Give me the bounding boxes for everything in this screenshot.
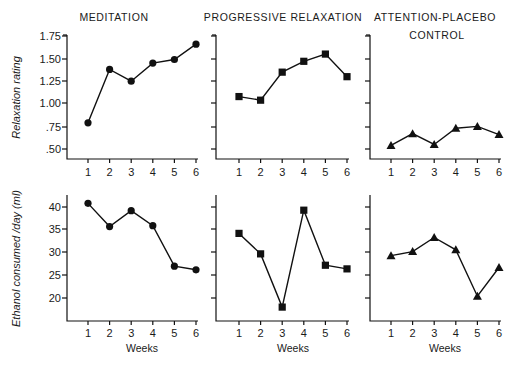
y-tick-label: 1.00 (40, 97, 61, 109)
x-tick-label: 5 (474, 327, 480, 339)
triangle-marker (495, 263, 504, 271)
x-tick-label: 4 (150, 327, 156, 339)
x-tick-label: 4 (150, 166, 156, 178)
data-line (88, 44, 196, 123)
square-marker (279, 304, 286, 311)
y-tick-label: 20 (49, 292, 61, 304)
circle-marker (106, 223, 113, 230)
circle-marker (171, 263, 178, 270)
y-tick-label: .75 (46, 121, 61, 133)
y-tick-label: 40 (49, 201, 61, 213)
square-marker (235, 230, 242, 237)
y-tick-label: 1.25 (40, 75, 61, 87)
data-line (239, 210, 347, 307)
x-tick-label: 1 (388, 327, 394, 339)
axis-lines (67, 35, 198, 159)
x-tick-label: 3 (279, 327, 285, 339)
y-tick-label: 1.75 (40, 30, 61, 42)
x-tick-label: 3 (279, 166, 285, 178)
square-marker (300, 58, 307, 65)
square-marker (322, 50, 329, 57)
x-tick-label: 1 (236, 166, 242, 178)
circle-marker (149, 60, 156, 67)
y-tick-label: 35 (49, 223, 61, 235)
data-line (88, 203, 196, 269)
x-tick-label: 6 (344, 166, 350, 178)
square-marker (322, 262, 329, 269)
x-tick-label: 2 (107, 327, 113, 339)
x-tick-label: 4 (301, 166, 307, 178)
x-tick-label: 5 (322, 327, 328, 339)
square-marker (257, 250, 264, 257)
square-marker (279, 69, 286, 76)
x-tick-label: 1 (388, 166, 394, 178)
triangle-marker (430, 233, 439, 241)
x-tick-label: 4 (453, 327, 459, 339)
circle-marker (192, 266, 199, 273)
triangle-marker (408, 129, 417, 137)
panel-title: PROGRESSIVE RELAXATION (204, 11, 362, 23)
circle-marker (149, 222, 156, 229)
square-marker (343, 265, 350, 272)
square-marker (257, 97, 264, 104)
x-tick-label: 6 (344, 327, 350, 339)
x-tick-label: 1 (85, 166, 91, 178)
x-tick-label: 2 (410, 327, 416, 339)
x-tick-label: 6 (496, 166, 502, 178)
x-tick-label: 6 (193, 166, 199, 178)
square-marker (300, 207, 307, 214)
triangle-marker (451, 245, 460, 253)
y-tick-label: 1.50 (40, 53, 61, 65)
triangle-marker (387, 141, 396, 149)
x-tick-label: 2 (258, 327, 264, 339)
chart-figure: MEDITATIONPROGRESSIVE RELAXATIONATTENTIO… (0, 0, 523, 370)
y-tick-label: 30 (49, 246, 61, 258)
circle-marker (192, 41, 199, 48)
x-tick-label: 5 (474, 166, 480, 178)
y-tick-label: .50 (46, 143, 61, 155)
panel-title-line2: CONTROL (409, 29, 465, 41)
triangle-marker (473, 122, 482, 130)
square-marker (343, 73, 350, 80)
data-line (391, 237, 499, 296)
x-tick-label: 3 (128, 327, 134, 339)
circle-marker (128, 78, 135, 85)
x-axis-label: Weeks (429, 342, 461, 354)
x-tick-label: 1 (236, 327, 242, 339)
x-tick-label: 2 (410, 166, 416, 178)
data-line (391, 126, 499, 145)
circle-marker (106, 66, 113, 73)
data-line (239, 54, 347, 100)
x-tick-label: 1 (85, 327, 91, 339)
triangle-marker (408, 247, 417, 255)
triangle-marker (430, 140, 439, 148)
circle-marker (84, 119, 91, 126)
square-marker (235, 93, 242, 100)
x-tick-label: 3 (431, 327, 437, 339)
x-tick-label: 2 (107, 166, 113, 178)
circle-marker (128, 207, 135, 214)
circle-marker (171, 56, 178, 63)
x-tick-label: 6 (193, 327, 199, 339)
x-tick-label: 3 (128, 166, 134, 178)
axis-lines (370, 35, 501, 159)
axis-lines (216, 195, 349, 321)
panel-title: ATTENTION-PLACEBO (374, 11, 496, 23)
panel-title: MEDITATION (79, 11, 148, 23)
x-tick-label: 4 (301, 327, 307, 339)
x-tick-label: 3 (431, 166, 437, 178)
x-tick-label: 2 (258, 166, 264, 178)
x-axis-label: Weeks (126, 342, 158, 354)
x-axis-label: Weeks (277, 342, 309, 354)
circle-marker (84, 200, 91, 207)
x-tick-label: 5 (322, 166, 328, 178)
x-tick-label: 5 (171, 327, 177, 339)
x-tick-label: 5 (171, 166, 177, 178)
x-tick-label: 6 (496, 327, 502, 339)
y-axis-label: Relaxation rating (10, 55, 22, 138)
y-axis-label: Ethanol consumed /day (ml) (10, 190, 22, 327)
y-tick-label: 25 (49, 269, 61, 281)
x-tick-label: 4 (453, 166, 459, 178)
